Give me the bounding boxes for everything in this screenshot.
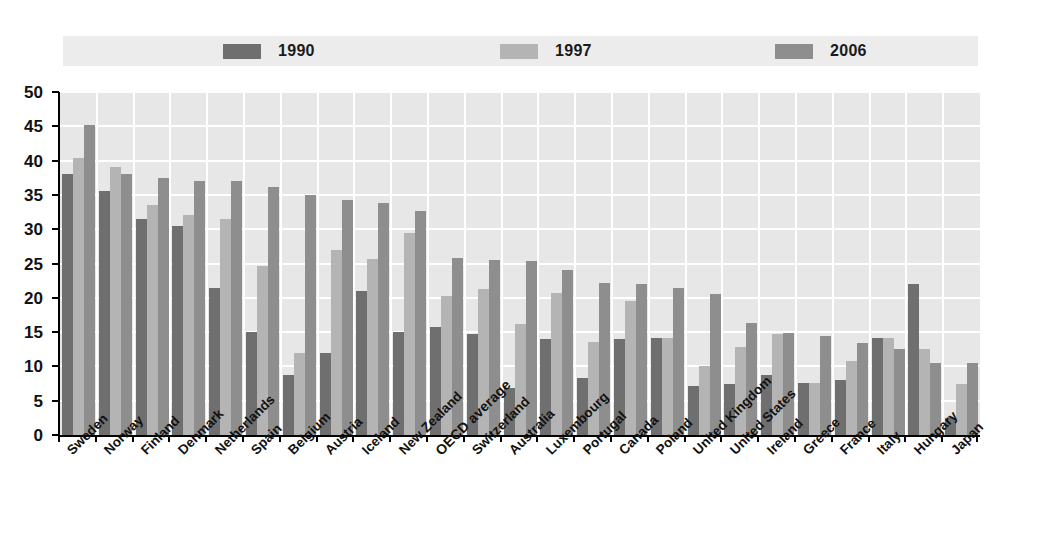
bar-iceland-1997 [367, 259, 378, 435]
x-axis-ticks [58, 435, 978, 443]
bar-group-finland [136, 92, 169, 435]
bar-denmark-1997 [183, 215, 194, 435]
bar-group-belgium [283, 92, 316, 435]
bar-oecd-average-1990 [430, 327, 441, 435]
bar-austria-1997 [331, 250, 342, 435]
x-tick-3 [168, 435, 170, 442]
bar-new-zealand-1997 [404, 233, 415, 435]
bar-group-denmark [172, 92, 205, 435]
bar-group-portugal [577, 92, 610, 435]
legend-item-1990: 1990 [223, 42, 315, 60]
x-tick-11 [463, 435, 465, 442]
bar-hungary-2006 [930, 363, 941, 435]
bar-belgium-1997 [294, 353, 305, 435]
bar-canada-1990 [614, 339, 625, 435]
bar-group-new-zealand [393, 92, 426, 435]
bar-denmark-1990 [172, 226, 183, 435]
bar-france-1990 [835, 380, 846, 435]
bar-oecd-average-2006 [452, 258, 463, 435]
bar-france-2006 [857, 343, 868, 435]
bar-australia-1990 [504, 388, 515, 435]
bar-group-switzerland [467, 92, 500, 435]
x-tick-8 [352, 435, 354, 442]
bar-united-kingdom-1990 [688, 386, 699, 435]
y-tick-label-0: 0 [34, 427, 43, 444]
bar-switzerland-1990 [467, 334, 478, 435]
bar-norway-2006 [121, 174, 132, 435]
bar-italy-1990 [872, 338, 883, 435]
y-tick-label-30: 30 [24, 221, 43, 238]
chart-legend: 199019972006 [63, 36, 978, 66]
bar-sweden-2006 [84, 125, 95, 435]
x-tick-20 [794, 435, 796, 442]
bar-netherlands-1990 [209, 288, 220, 435]
x-tick-18 [720, 435, 722, 442]
bar-greece-1997 [809, 383, 820, 435]
bar-ireland-1990 [761, 375, 772, 435]
y-tick-label-5: 5 [34, 392, 43, 409]
x-tick-14 [573, 435, 575, 442]
bar-greece-1990 [798, 383, 809, 435]
y-axis: 05101520253035404550 [0, 92, 52, 435]
x-tick-7 [316, 435, 318, 442]
bar-france-1997 [846, 361, 857, 435]
bar-ireland-2006 [783, 333, 794, 435]
bar-switzerland-2006 [489, 260, 500, 435]
bar-japan-2006 [967, 363, 978, 435]
y-tick-label-50: 50 [24, 84, 43, 101]
bar-poland-1997 [662, 338, 673, 435]
bar-united-kingdom-1997 [699, 366, 710, 435]
bar-luxembourg-1990 [540, 339, 551, 435]
x-tick-25 [976, 435, 978, 442]
legend-label-1990: 1990 [278, 42, 315, 60]
bar-group-iceland [356, 92, 389, 435]
x-tick-0 [58, 435, 60, 442]
x-tick-19 [757, 435, 759, 442]
bar-group-sweden [62, 92, 95, 435]
bar-oecd-average-1997 [441, 296, 452, 435]
bar-japan-1997 [956, 384, 967, 435]
bar-netherlands-1997 [220, 219, 231, 435]
x-tick-22 [868, 435, 870, 442]
bar-belgium-2006 [305, 195, 316, 435]
bar-finland-1997 [147, 205, 158, 435]
bar-new-zealand-1990 [393, 332, 404, 435]
legend-swatch-1997 [500, 44, 538, 59]
plot-area [58, 92, 980, 437]
bar-austria-2006 [342, 200, 353, 435]
bar-group-netherlands [209, 92, 242, 435]
bar-denmark-2006 [194, 181, 205, 435]
bar-group-poland [651, 92, 684, 435]
bar-norway-1997 [110, 167, 121, 435]
bar-luxembourg-1997 [551, 293, 562, 435]
x-tick-9 [389, 435, 391, 442]
bar-poland-2006 [673, 288, 684, 435]
x-tick-1 [95, 435, 97, 442]
bar-portugal-1997 [588, 342, 599, 435]
bar-group-luxembourg [540, 92, 573, 435]
bar-group-hungary [908, 92, 941, 435]
bar-japan-1990 [945, 418, 956, 435]
x-tick-15 [610, 435, 612, 442]
x-tick-21 [831, 435, 833, 442]
bar-group-spain [246, 92, 279, 435]
bar-australia-2006 [526, 261, 537, 435]
bar-norway-1990 [99, 191, 110, 435]
bar-hungary-1997 [919, 349, 930, 435]
bar-iceland-1990 [356, 291, 367, 435]
x-tick-17 [684, 435, 686, 442]
y-tick-label-40: 40 [24, 152, 43, 169]
bar-sweden-1990 [62, 174, 73, 435]
legend-item-1997: 1997 [500, 42, 592, 60]
bar-hungary-1990 [908, 284, 919, 435]
bar-new-zealand-2006 [415, 211, 426, 435]
y-tick-label-35: 35 [24, 186, 43, 203]
bar-group-greece [798, 92, 831, 435]
y-tick-label-45: 45 [24, 118, 43, 135]
bar-austria-1990 [320, 353, 331, 435]
bar-switzerland-1997 [478, 289, 489, 435]
bar-finland-2006 [158, 178, 169, 435]
y-tick-label-25: 25 [24, 255, 43, 272]
bar-finland-1990 [136, 219, 147, 435]
y-tick-label-20: 20 [24, 289, 43, 306]
